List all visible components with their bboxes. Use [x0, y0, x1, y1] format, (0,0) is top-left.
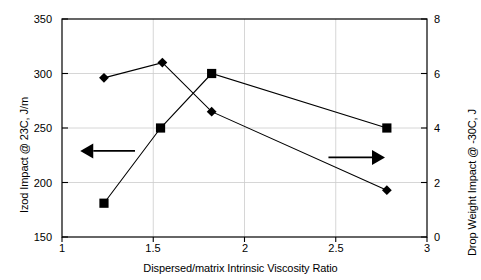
- data-point-marker-square: [207, 69, 216, 78]
- series-line-1: [104, 63, 387, 191]
- data-series-layer: [99, 58, 392, 208]
- arrow-left-icon: [80, 143, 93, 158]
- gridlines: [62, 19, 427, 237]
- data-point-marker-square: [156, 123, 165, 132]
- data-point-marker-diamond: [99, 73, 109, 83]
- data-point-marker-square: [382, 123, 391, 132]
- chart-figure: Izod Impact @ 23C, J/m Drop Weight Impac…: [0, 0, 481, 280]
- arrow-right-icon: [372, 150, 385, 165]
- annotation-layer: [80, 143, 385, 165]
- data-point-marker-diamond: [382, 185, 392, 195]
- plot-area: [0, 0, 481, 280]
- series-line-0: [104, 74, 387, 204]
- data-point-marker-square: [99, 199, 108, 208]
